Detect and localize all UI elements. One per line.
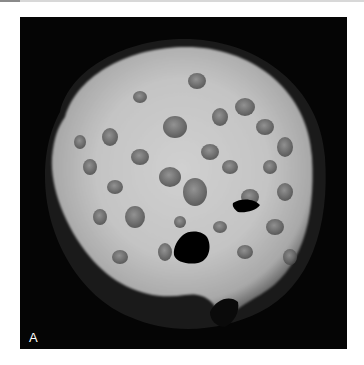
specimen-photo: A [20,17,347,349]
top-border-accent [0,0,20,2]
specimen-image [20,17,347,349]
panel-label: A [29,330,38,345]
top-border [0,0,364,2]
